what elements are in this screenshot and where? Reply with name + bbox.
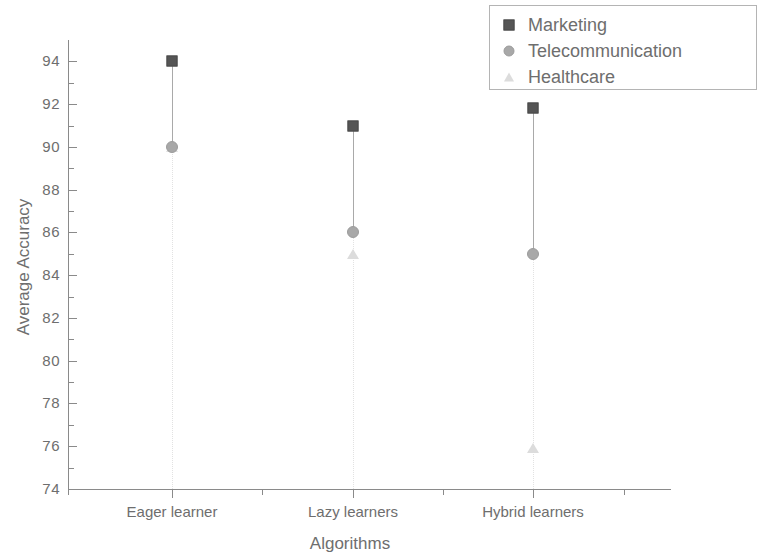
y-tick-major [69, 318, 77, 319]
x-tick-minor [262, 490, 263, 495]
y-tick-major [69, 190, 77, 191]
data-point-square-marker [528, 103, 539, 114]
y-tick-minor [69, 382, 74, 383]
y-tick-minor [69, 83, 74, 84]
x-axis-line [68, 489, 671, 490]
connector-line [533, 108, 534, 254]
x-tick-major [533, 490, 534, 498]
data-point-square-marker [348, 121, 359, 132]
y-tick-major [69, 275, 77, 276]
connector-line [353, 126, 354, 232]
y-axis-line [68, 40, 69, 490]
x-tick-minor [443, 490, 444, 495]
x-tick-label: Lazy learners [263, 503, 443, 521]
y-tick-major [69, 446, 77, 447]
y-tick-major [69, 403, 77, 404]
legend-item-healthcare: Healthcare [490, 64, 756, 90]
y-tick-major [69, 232, 77, 233]
x-tick-major [172, 490, 173, 498]
y-tick-major [69, 489, 77, 490]
y-tick-minor [69, 126, 74, 127]
legend-label: Marketing [528, 14, 607, 36]
y-axis-title: Average Accuracy [14, 147, 34, 387]
x-tick-minor [68, 490, 69, 495]
x-tick-label: Hybrid learners [443, 503, 623, 521]
y-tick-minor [69, 168, 74, 169]
y-tick-major [69, 147, 77, 148]
y-tick-label: 94 [26, 53, 60, 68]
legend-item-telecommunication: Telecommunication [490, 38, 756, 64]
triangle-marker-icon [490, 64, 528, 90]
chart-legend: Marketing Telecommunication Healthcare [489, 5, 757, 90]
data-point-circle-marker [347, 226, 359, 238]
x-tick-minor [624, 490, 625, 495]
y-tick-label: 92 [26, 96, 60, 111]
circle-marker-icon [490, 38, 528, 64]
data-point-triangle-marker [527, 443, 539, 453]
y-tick-minor [69, 339, 74, 340]
y-tick-minor [69, 468, 74, 469]
legend-item-marketing: Marketing [490, 12, 756, 38]
y-tick-major [69, 61, 77, 62]
y-tick-minor [69, 211, 74, 212]
data-point-circle-marker [527, 248, 539, 260]
connector-line [172, 61, 173, 147]
y-tick-major [69, 361, 77, 362]
data-point-square-marker [167, 56, 178, 67]
x-axis-title: Algorithms [0, 534, 700, 554]
data-point-triangle-marker [347, 249, 359, 259]
y-tick-minor [69, 425, 74, 426]
y-tick-major [69, 104, 77, 105]
y-tick-label: 76 [26, 438, 60, 453]
legend-label: Telecommunication [528, 40, 682, 62]
y-tick-minor [69, 297, 74, 298]
square-marker-icon [490, 12, 528, 38]
x-tick-major [353, 490, 354, 498]
y-tick-label: 78 [26, 395, 60, 410]
legend-label: Healthcare [528, 66, 615, 88]
x-tick-label: Eager learner [82, 503, 262, 521]
y-tick-minor [69, 254, 74, 255]
y-tick-label: 74 [26, 481, 60, 496]
data-point-circle-marker [166, 141, 178, 153]
